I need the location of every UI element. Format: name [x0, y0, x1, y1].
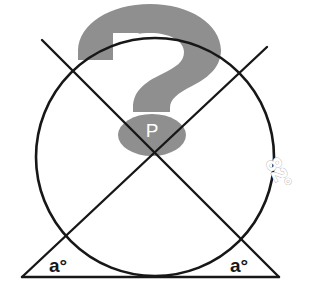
angle-label-left: a° [49, 255, 67, 276]
geometry-figure: P 82° a° a° [0, 0, 320, 294]
secant-line-right [22, 47, 267, 277]
angle-label-right: a° [230, 255, 248, 276]
diagram-canvas: P 82° a° a° [0, 0, 320, 294]
arc-measure-label: 82° [261, 154, 296, 193]
point-p-label: P [146, 120, 159, 141]
